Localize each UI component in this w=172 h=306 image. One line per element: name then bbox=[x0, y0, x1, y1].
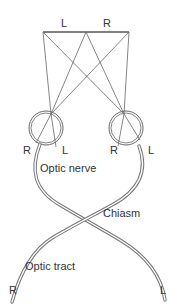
right-eye-r-label: R bbox=[110, 145, 118, 156]
optic-nerve-label: Optic nerve bbox=[40, 163, 96, 174]
right-eye bbox=[109, 111, 143, 145]
tract-end-r-label: R bbox=[9, 285, 17, 296]
left-eye bbox=[29, 111, 63, 145]
visual-field-left-label: L bbox=[61, 18, 67, 29]
light-rays bbox=[36, 32, 140, 147]
left-eye-l-label: L bbox=[62, 145, 68, 156]
chiasm-label: Chiasm bbox=[103, 208, 140, 219]
right-eye-l-label: L bbox=[148, 145, 154, 156]
optic-tract-label: Optic tract bbox=[25, 261, 75, 272]
left-eye-r-label: R bbox=[23, 145, 31, 156]
visual-field-right-label: R bbox=[103, 18, 111, 29]
tract-end-l-label: L bbox=[160, 285, 166, 296]
